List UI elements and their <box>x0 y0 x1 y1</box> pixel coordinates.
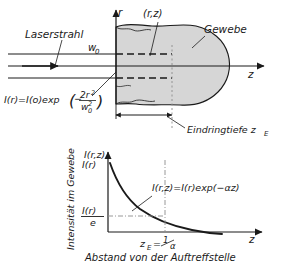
svg-text:=: = <box>153 238 161 249</box>
upper-r-axis-label: r <box>118 6 123 18</box>
decay-formula-leader <box>132 196 152 211</box>
y-tick-i-over-e: I(r) e <box>81 205 104 228</box>
tissue-label: Gewebe <box>204 23 247 35</box>
svg-text:z: z <box>139 238 146 249</box>
lower-y-axis-title: Intensität im Gewebe <box>65 148 76 250</box>
x-tick-z-e: z E = 1 α <box>139 235 176 252</box>
svg-text:I(r): I(r) <box>82 205 96 216</box>
intensity-decay-curve <box>110 163 222 234</box>
svg-text:2: 2 <box>88 100 92 108</box>
laser-beam-label: Laserstrahl <box>25 28 84 40</box>
svg-text:I(r)=I(o)exp: I(r)=I(o)exp <box>4 94 60 105</box>
figure-canvas: Laserstrahl Gewebe (r,z) r z w 0 I(r)=I(… <box>0 0 281 266</box>
svg-text:): ) <box>96 92 103 111</box>
formula-leader-line <box>92 72 116 96</box>
svg-text:E: E <box>147 244 152 252</box>
svg-text:e: e <box>90 217 96 228</box>
svg-text:2r: 2r <box>80 90 91 100</box>
beam-profile-formula: I(r)=I(o)exp ( − 2r 2 w 0 2 ) <box>4 89 103 115</box>
penetration-depth-label: Eindringtiefe z E <box>187 124 269 138</box>
laser-tissue-interaction-figure: Laserstrahl Gewebe (r,z) r z w 0 I(r)=I(… <box>0 0 281 266</box>
svg-text:α: α <box>170 241 176 251</box>
upper-z-axis-label: z <box>247 68 254 80</box>
svg-text:E: E <box>264 130 269 138</box>
lower-x-axis-label: z <box>248 233 255 245</box>
lower-x-axis-title: Abstand von der Auftreffstelle <box>84 252 236 263</box>
svg-text:2: 2 <box>91 89 95 97</box>
laser-leader-line <box>55 40 62 66</box>
decay-formula-label: I(r,z)=I(r)exp(−αz) <box>152 182 239 193</box>
svg-text:0: 0 <box>95 48 100 56</box>
tissue-region <box>116 25 230 106</box>
y-tick-i-r: I(r) <box>82 159 96 170</box>
point-rz-label: (r,z) <box>143 8 162 19</box>
penetration-label-leader <box>168 117 185 128</box>
svg-text:Eindringtiefe z: Eindringtiefe z <box>187 124 257 135</box>
